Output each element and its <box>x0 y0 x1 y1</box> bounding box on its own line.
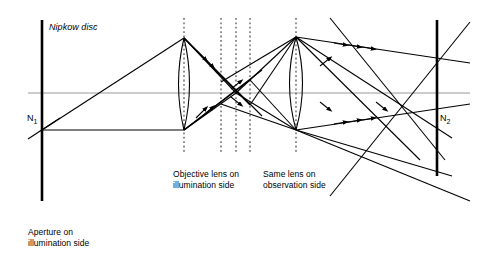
rays-aperture-to-lens1 <box>28 38 184 139</box>
nipkow-disc-label: Nipkow disc <box>49 22 98 33</box>
optical-ray-diagram <box>0 0 483 257</box>
dashed-reference-planes <box>184 18 296 152</box>
ray-out-bot-steep <box>296 130 470 201</box>
figure-canvas: Nipkow disc N1 N2 Aperture on illuminati… <box>0 0 483 257</box>
node-n2-subscript: 2 <box>447 118 451 125</box>
rays-lens1-to-crossover <box>184 38 250 130</box>
node-n1-label: N1 <box>27 113 38 127</box>
ray-x-up-3 <box>221 37 296 82</box>
node-n2-label: N2 <box>440 113 451 127</box>
ray-x-up-1 <box>236 37 296 93</box>
objective-lens-label: Objective lens on illumination side <box>173 169 239 190</box>
aperture-label: Aperture on illumination side <box>28 227 89 248</box>
ray-n1-upper <box>42 38 184 130</box>
ray-out-top-flat <box>296 37 470 63</box>
ray-cross-up <box>330 22 470 196</box>
node-n1-subscript: 1 <box>34 118 38 125</box>
ray-cross-dn <box>330 18 445 160</box>
ray-out-top-steep <box>296 37 420 160</box>
ray-x-up-2 <box>250 37 296 105</box>
ray-out-top-mid <box>296 37 452 138</box>
ray-arrowheads-outgoing <box>320 43 386 124</box>
same-lens-label: Same lens on observation side <box>263 169 326 190</box>
rays-crossover-to-lens2 <box>221 37 296 130</box>
